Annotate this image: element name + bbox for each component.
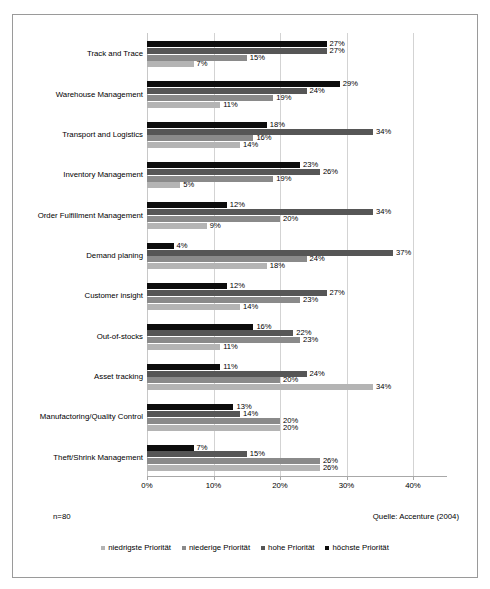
bar: 9%	[147, 223, 207, 229]
category-label: Asset tracking	[31, 372, 143, 382]
bar: 18%	[147, 122, 267, 128]
bar-fill	[147, 344, 220, 350]
bar-value-label: 5%	[183, 181, 194, 189]
bar-fill	[147, 458, 320, 464]
legend-label: niederige Priorität	[189, 543, 250, 552]
bar-group: 12%34%20%9%	[147, 202, 447, 228]
bar-fill	[147, 377, 280, 383]
x-tick-mark	[280, 477, 281, 480]
bar-fill	[147, 95, 273, 101]
bar: 20%	[147, 377, 280, 383]
bar-group: 23%26%19%5%	[147, 162, 447, 188]
bar-fill	[147, 169, 320, 175]
bar-value-label: 15%	[250, 450, 265, 458]
bar-group: 13%14%20%20%	[147, 404, 447, 430]
category-label: Transport and Logistics	[31, 130, 143, 140]
bar-value-label: 20%	[283, 215, 298, 223]
bar-group: 7%15%26%26%	[147, 445, 447, 471]
x-tick-label: 0%	[141, 481, 152, 490]
legend-item: niederige Priorität	[182, 543, 250, 552]
bar: 37%	[147, 250, 393, 256]
bar-value-label: 11%	[223, 363, 238, 371]
bar-fill	[147, 162, 300, 168]
bar: 11%	[147, 102, 220, 108]
bar: 34%	[147, 384, 373, 390]
category-label: Track and Trace	[31, 49, 143, 59]
bar: 14%	[147, 142, 240, 148]
bar-group: 16%22%23%11%	[147, 324, 447, 350]
bar: 18%	[147, 263, 267, 269]
bar-value-label: 34%	[376, 383, 391, 391]
x-tick-label: 30%	[339, 481, 355, 490]
x-tick-mark	[347, 477, 348, 480]
bar-value-label: 7%	[197, 444, 208, 452]
category-label: Inventory Management	[31, 170, 143, 180]
category-label: Theft/Shrink Management	[31, 453, 143, 463]
source-note: Quelle: Accenture (2004)	[373, 512, 459, 521]
category-label: Demand planing	[31, 251, 143, 261]
x-tick-mark	[147, 477, 148, 480]
x-axis-line	[147, 476, 447, 477]
bar-value-label: 24%	[310, 370, 325, 378]
bar-fill	[147, 182, 180, 188]
bar: 22%	[147, 330, 293, 336]
bar: 4%	[147, 243, 174, 249]
bar-group: 11%24%20%34%	[147, 364, 447, 390]
bar-group: 12%27%23%14%	[147, 283, 447, 309]
bar-fill	[147, 243, 174, 249]
bar-fill	[147, 364, 220, 370]
legend-swatch-icon	[261, 546, 265, 550]
bar: 20%	[147, 425, 280, 431]
bar-value-label: 24%	[310, 87, 325, 95]
bar-value-label: 15%	[250, 54, 265, 62]
bar: 19%	[147, 176, 273, 182]
bar-fill	[147, 425, 280, 431]
legend-swatch-icon	[182, 546, 186, 550]
x-tick-label: 20%	[272, 481, 288, 490]
bar-value-label: 14%	[243, 410, 258, 418]
bar-value-label: 14%	[243, 303, 258, 311]
bar: 5%	[147, 182, 180, 188]
bar: 27%	[147, 290, 327, 296]
legend-swatch-icon	[101, 546, 105, 550]
bar-value-label: 27%	[330, 289, 345, 297]
bar-fill	[147, 209, 373, 215]
bar-value-label: 4%	[177, 242, 188, 250]
bar: 20%	[147, 418, 280, 424]
bar-value-label: 9%	[210, 222, 221, 230]
bar-fill	[147, 263, 267, 269]
bar-value-label: 29%	[343, 80, 358, 88]
bar-value-label: 14%	[243, 141, 258, 149]
bar-fill	[147, 290, 327, 296]
x-tick-mark	[214, 477, 215, 480]
bar-fill	[147, 451, 247, 457]
bar-value-label: 11%	[223, 343, 238, 351]
bar-fill	[147, 384, 373, 390]
chart-legend: niedrigste Prioritätniederige Prioritäth…	[13, 543, 477, 552]
legend-swatch-icon	[325, 546, 329, 550]
bar-value-label: 23%	[303, 161, 318, 169]
chart-frame: Track and TraceWarehouse ManagementTrans…	[12, 14, 478, 578]
bar-value-label: 16%	[256, 134, 271, 142]
bar-value-label: 12%	[230, 201, 245, 209]
bar: 14%	[147, 304, 240, 310]
category-axis-labels: Track and TraceWarehouse ManagementTrans…	[31, 33, 143, 477]
bar-value-label: 19%	[276, 94, 291, 102]
bar: 12%	[147, 283, 227, 289]
legend-label: höchste Priorität	[332, 543, 388, 552]
bar: 34%	[147, 209, 373, 215]
bar: 27%	[147, 41, 327, 47]
bar-value-label: 37%	[396, 249, 411, 257]
category-label: Manufactoring/Quality Control	[31, 412, 143, 422]
bar-group: 29%24%19%11%	[147, 81, 447, 107]
bar-fill	[147, 176, 273, 182]
legend-label: hohe Priorität	[268, 543, 314, 552]
legend-item: höchste Priorität	[325, 543, 388, 552]
bar-value-label: 19%	[276, 175, 291, 183]
bar-fill	[147, 445, 194, 451]
bar-fill	[147, 297, 300, 303]
bar-value-label: 7%	[197, 60, 208, 68]
bar: 16%	[147, 324, 253, 330]
bar-group: 18%34%16%14%	[147, 122, 447, 148]
bar-fill	[147, 41, 327, 47]
